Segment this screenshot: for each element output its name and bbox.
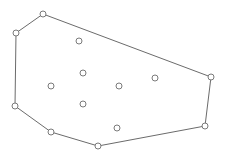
hull-vertex-point [48,129,54,135]
interior-point [152,75,158,81]
interior-point-group [48,38,158,131]
hull-vertex-group [12,11,214,149]
hull-vertex-point [13,30,19,36]
hull-vertex-point [12,103,18,109]
interior-point [80,101,86,107]
hull-vertex-point [208,74,214,80]
interior-point [76,38,82,44]
hull-vertex-point [40,11,46,17]
convex-hull-polygon [15,14,211,146]
interior-point [48,83,54,89]
interior-point [116,83,122,89]
hull-vertex-point [202,123,208,129]
interior-point [114,125,120,131]
convex-hull-diagram [0,0,225,155]
hull-vertex-point [95,143,101,149]
interior-point [80,70,86,76]
